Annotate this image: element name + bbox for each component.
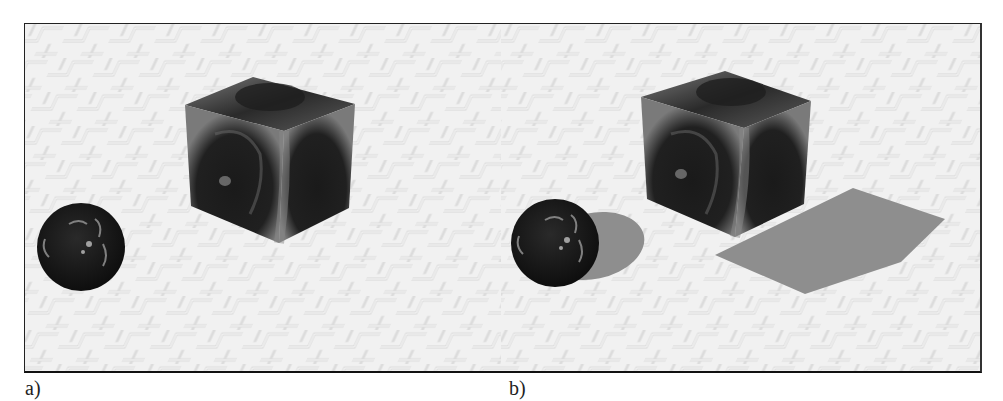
textured-sphere-b [511, 199, 599, 287]
panel-b-with-shadows [501, 24, 981, 371]
panel-b-label: b) [509, 377, 526, 400]
panel-a-no-shadows [25, 24, 501, 371]
figure-frame [24, 23, 982, 373]
panel-a-label: a) [25, 377, 41, 400]
textured-floor-a [25, 24, 501, 371]
textured-sphere-a [37, 203, 125, 291]
textured-floor-b [501, 24, 981, 371]
